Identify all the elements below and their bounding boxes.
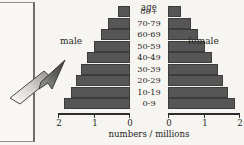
bar-row bbox=[56, 6, 130, 18]
bar-female-80plus bbox=[168, 6, 181, 17]
age-label-column: age 80+ 70-79 60-69 50-59 40-49 30-39 20… bbox=[130, 6, 168, 113]
bar-row bbox=[168, 64, 242, 76]
bar-row bbox=[168, 75, 242, 87]
bar-female-70-79 bbox=[168, 18, 191, 29]
bar-row bbox=[56, 52, 130, 64]
bar-male-30-39 bbox=[81, 64, 130, 75]
age-label: 70-79 bbox=[130, 18, 168, 30]
chart-title: age bbox=[130, 2, 168, 12]
bar-female-40-49 bbox=[168, 52, 212, 63]
bar-male-60-69 bbox=[101, 29, 130, 40]
bar-female-10-19 bbox=[168, 87, 228, 98]
axis-tick-label: 1 bbox=[92, 118, 97, 128]
bar-row bbox=[168, 98, 242, 110]
bar-female-0-9 bbox=[168, 98, 235, 109]
bar-row bbox=[56, 64, 130, 76]
bar-row bbox=[168, 6, 242, 18]
bar-row bbox=[56, 98, 130, 110]
pyramid-plot-area: age 80+ 70-79 60-69 50-59 40-49 30-39 20… bbox=[56, 6, 242, 113]
bar-female-20-29 bbox=[168, 75, 223, 86]
axis-tick-label: 1 bbox=[202, 118, 207, 128]
bar-row bbox=[168, 18, 242, 30]
age-label: 20-29 bbox=[130, 75, 168, 87]
female-bars bbox=[168, 6, 242, 113]
axis-tick-label: 0 bbox=[127, 118, 132, 128]
bar-male-10-19 bbox=[71, 87, 130, 98]
bar-row bbox=[56, 87, 130, 99]
age-label: 50-59 bbox=[130, 41, 168, 53]
bar-female-30-39 bbox=[168, 64, 218, 75]
x-axis-caption: numbers / millions bbox=[56, 129, 242, 139]
population-pyramid-chart: age 80+ 70-79 60-69 50-59 40-49 30-39 20… bbox=[56, 2, 242, 143]
bar-male-80plus bbox=[118, 6, 130, 17]
bar-row bbox=[56, 18, 130, 30]
bar-male-70-79 bbox=[108, 18, 130, 29]
bar-male-50-59 bbox=[94, 41, 130, 52]
bar-male-20-29 bbox=[76, 75, 130, 86]
bar-row bbox=[168, 87, 242, 99]
age-label: 30-39 bbox=[130, 64, 168, 76]
axis-tick-label: 2 bbox=[56, 118, 61, 128]
bar-row bbox=[56, 75, 130, 87]
axis-tick-label: 2 bbox=[237, 118, 242, 128]
bar-row bbox=[168, 52, 242, 64]
bar-male-40-49 bbox=[87, 52, 130, 63]
bar-male-0-9 bbox=[64, 98, 130, 109]
age-label: 40-49 bbox=[130, 52, 168, 64]
axis-tick-label: 0 bbox=[166, 118, 171, 128]
female-series-label: female bbox=[188, 36, 219, 46]
age-label: 60-69 bbox=[130, 29, 168, 41]
age-label: 10-19 bbox=[130, 87, 168, 99]
male-series-label: male bbox=[60, 36, 82, 46]
age-label: 0-9 bbox=[130, 98, 168, 110]
male-bars bbox=[56, 6, 130, 113]
